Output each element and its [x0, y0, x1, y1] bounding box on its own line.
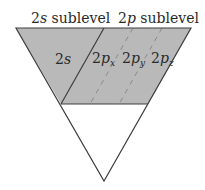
header-2p-sublevel: 2p sublevel — [118, 10, 199, 26]
orbital-label-2s: 2s — [55, 51, 71, 67]
header-2s-sublevel: 2s sublevel — [31, 10, 111, 26]
filled-region — [16, 28, 191, 104]
sublevel-diagram: 2s sublevel 2p sublevel 2s 2px 2py 2pz — [0, 0, 205, 190]
